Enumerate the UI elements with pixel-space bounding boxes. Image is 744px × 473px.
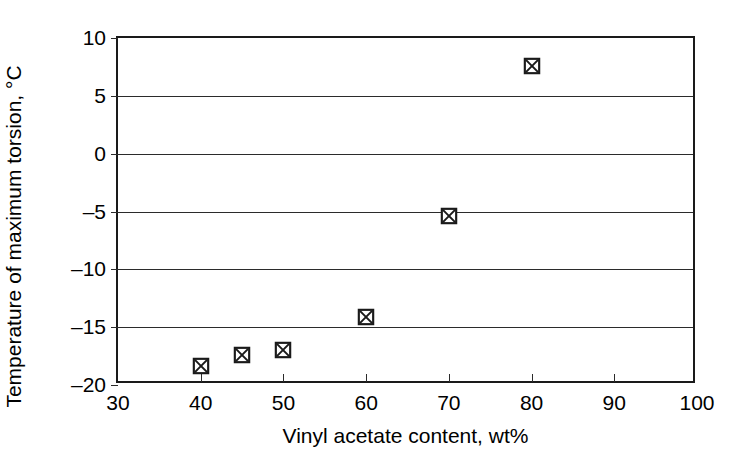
y-tick-label: –20 xyxy=(71,373,106,397)
data-point-marker xyxy=(275,342,292,359)
y-tick-label: 10 xyxy=(83,26,106,50)
y-tick-label: 5 xyxy=(94,84,106,108)
gridline xyxy=(118,154,693,155)
x-tick-mark xyxy=(366,374,367,382)
x-tick-label: 70 xyxy=(437,391,460,415)
gridline xyxy=(118,96,693,97)
y-tick-mark xyxy=(111,327,118,328)
x-tick-mark xyxy=(283,374,284,382)
x-tick-label: 40 xyxy=(189,391,212,415)
chart-figure: Temperature of maximum torsion, °C 1050–… xyxy=(0,0,744,473)
x-tick-label: 100 xyxy=(679,391,714,415)
x-tick-mark xyxy=(532,374,533,382)
x-axis-title: Vinyl acetate content, wt% xyxy=(116,424,695,448)
y-tick-label: 0 xyxy=(94,142,106,166)
x-tick-mark xyxy=(449,374,450,382)
y-tick-label: –15 xyxy=(71,315,106,339)
y-tick-label: –5 xyxy=(83,200,106,224)
x-tick-label: 90 xyxy=(603,391,626,415)
y-tick-mark xyxy=(111,385,118,386)
y-tick-mark xyxy=(111,269,118,270)
gridline xyxy=(118,327,693,328)
data-point-marker xyxy=(192,358,209,375)
plot-area: 1050–5–10–15–20 30405060708090100 xyxy=(116,36,695,383)
y-tick-mark xyxy=(111,96,118,97)
data-point-marker xyxy=(440,208,457,225)
y-tick-mark xyxy=(111,212,118,213)
y-tick-label: –10 xyxy=(71,257,106,281)
x-tick-label: 60 xyxy=(354,391,377,415)
data-point-marker xyxy=(234,346,251,363)
x-tick-mark xyxy=(614,374,615,382)
x-tick-label: 30 xyxy=(106,391,129,415)
y-axis-title: Temperature of maximum torsion, °C xyxy=(0,0,46,473)
x-tick-label: 50 xyxy=(272,391,295,415)
data-point-marker xyxy=(523,57,540,74)
data-point-marker xyxy=(358,308,375,325)
y-axis-title-text: Temperature of maximum torsion, °C xyxy=(2,65,44,407)
x-tick-label: 80 xyxy=(520,391,543,415)
gridline xyxy=(118,269,693,270)
gridline xyxy=(118,212,693,213)
x-tick-mark xyxy=(201,374,202,382)
y-tick-mark xyxy=(111,154,118,155)
y-tick-mark xyxy=(111,38,118,39)
